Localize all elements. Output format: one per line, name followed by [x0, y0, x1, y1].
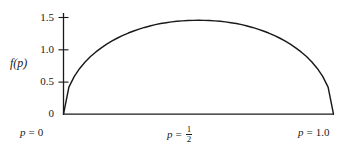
data-curve — [64, 20, 334, 114]
x-tick-var-p: p — [167, 128, 173, 140]
y-tick-label-1-5: 1.5 — [26, 12, 54, 23]
y-axis-label-text: f(p) — [10, 56, 27, 70]
x-tick-value: 0 — [38, 126, 44, 138]
y-tick-label-0-5: 0.5 — [26, 76, 54, 87]
x-tick-equals: = — [29, 126, 35, 138]
y-tick-label-1-0: 1.0 — [26, 44, 54, 55]
x-tick-fraction-one-half: 12 — [186, 125, 193, 144]
figure-container: 1.5 1.0 0.5 0 f(p) p=0 p=12 p=1.0 — [0, 0, 357, 150]
x-tick-label-p-0: p=0 — [20, 127, 43, 138]
x-tick-equals: = — [307, 126, 313, 138]
x-tick-value: 1.0 — [316, 126, 330, 138]
y-tick-label-0: 0 — [26, 108, 54, 119]
x-tick-label-p-half: p=12 — [167, 125, 192, 144]
x-tick-equals: = — [176, 128, 182, 140]
x-tick-var-p: p — [298, 126, 304, 138]
y-axis-label: f(p) — [10, 57, 27, 69]
x-tick-var-p: p — [20, 126, 26, 138]
x-tick-label-p-one: p=1.0 — [298, 127, 329, 138]
fraction-denominator: 2 — [186, 135, 193, 144]
